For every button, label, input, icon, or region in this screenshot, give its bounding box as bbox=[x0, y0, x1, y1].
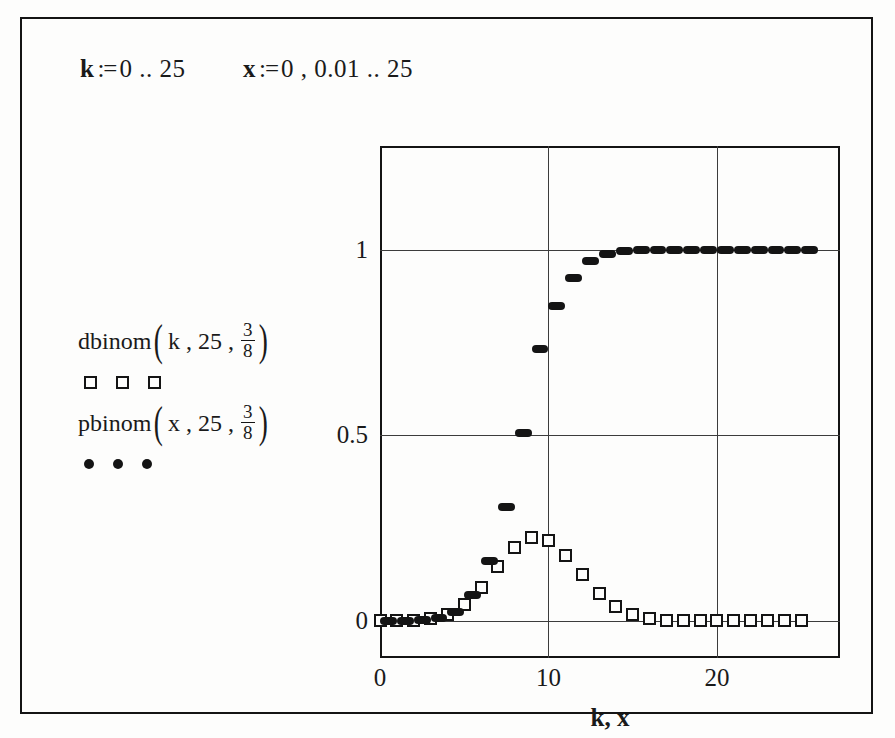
data-point-step-segment bbox=[397, 617, 414, 625]
data-point-step-segment bbox=[683, 246, 700, 254]
data-point-step-segment bbox=[768, 246, 785, 254]
data-point-step-segment bbox=[784, 246, 801, 254]
data-point-square bbox=[660, 614, 673, 627]
filled-dot-icon bbox=[142, 459, 152, 469]
plot-frame bbox=[380, 146, 840, 658]
x-tick-label: 0 bbox=[374, 664, 387, 692]
data-point-step-segment bbox=[700, 246, 717, 254]
legend-entry-dbinom: dbinom ( k , 25 , 3 8 ) bbox=[78, 319, 368, 363]
data-point-square bbox=[694, 614, 707, 627]
page-canvas: k:=0 .. 25 x:=0 , 0.01 .. 25 dbinom ( k … bbox=[0, 0, 895, 738]
data-point-square bbox=[778, 614, 791, 627]
definition-x-variable: x bbox=[243, 55, 256, 82]
data-point-step-segment bbox=[801, 246, 818, 254]
open-square-icon bbox=[84, 376, 97, 389]
y-tick-label: 1 bbox=[356, 236, 369, 264]
open-square-icon bbox=[148, 376, 161, 389]
data-point-step-segment bbox=[633, 246, 650, 254]
open-square-icon bbox=[116, 376, 129, 389]
plot-legend: dbinom ( k , 25 , 3 8 ) pbinom ( x , 25 … bbox=[78, 319, 368, 483]
definition-k: k:=0 .. 25 bbox=[80, 55, 185, 83]
legend-markers-dbinom bbox=[78, 363, 368, 401]
x-axis-label: k, x bbox=[591, 704, 630, 732]
left-paren-icon: ( bbox=[154, 405, 163, 440]
data-point-square bbox=[508, 541, 521, 554]
data-point-square bbox=[795, 614, 808, 627]
right-paren-icon: ) bbox=[258, 323, 267, 358]
data-point-square bbox=[744, 614, 757, 627]
data-point-step-segment bbox=[447, 608, 464, 616]
definition-k-operator: := bbox=[94, 55, 119, 82]
fraction-denominator: 8 bbox=[241, 422, 255, 442]
gridline-horizontal bbox=[380, 435, 840, 436]
data-point-step-segment bbox=[380, 617, 397, 625]
legend-markers-pbinom bbox=[78, 445, 368, 483]
data-point-square bbox=[626, 608, 639, 621]
data-point-step-segment bbox=[666, 246, 683, 254]
gridline-vertical bbox=[548, 146, 549, 658]
gridline-vertical bbox=[717, 146, 718, 658]
data-point-square bbox=[525, 531, 538, 544]
data-point-step-segment bbox=[532, 345, 549, 353]
legend-function-name-dbinom: dbinom bbox=[78, 328, 153, 355]
data-point-square bbox=[677, 614, 690, 627]
data-point-step-segment bbox=[464, 591, 481, 599]
data-point-step-segment bbox=[582, 257, 599, 265]
data-point-square bbox=[761, 614, 774, 627]
document-frame: k:=0 .. 25 x:=0 , 0.01 .. 25 dbinom ( k … bbox=[20, 17, 873, 714]
left-paren-icon: ( bbox=[154, 323, 163, 358]
data-point-step-segment bbox=[548, 302, 565, 310]
data-point-step-segment bbox=[599, 250, 616, 258]
binomial-plot: 00.51 01020 k, x bbox=[380, 146, 840, 658]
filled-dot-icon bbox=[84, 459, 94, 469]
data-point-step-segment bbox=[515, 429, 532, 437]
data-point-square bbox=[609, 600, 622, 613]
data-point-square bbox=[576, 568, 589, 581]
data-point-step-segment bbox=[616, 247, 633, 255]
fraction-numerator: 3 bbox=[241, 402, 255, 421]
y-tick-label: 0 bbox=[356, 607, 369, 635]
data-point-step-segment bbox=[717, 246, 734, 254]
legend-entry-pbinom: pbinom ( x , 25 , 3 8 ) bbox=[78, 401, 368, 445]
data-point-step-segment bbox=[734, 246, 751, 254]
y-tick-label: 0.5 bbox=[337, 421, 368, 449]
data-point-step-segment bbox=[565, 274, 582, 282]
fraction-numerator: 3 bbox=[241, 320, 255, 339]
legend-args-dbinom: k , 25 , bbox=[164, 328, 238, 355]
definition-k-variable: k bbox=[80, 55, 94, 82]
definition-block: k:=0 .. 25 x:=0 , 0.01 .. 25 bbox=[80, 55, 413, 83]
fraction-denominator: 8 bbox=[241, 340, 255, 360]
definition-x-expression: 0 , 0.01 .. 25 bbox=[281, 55, 413, 82]
definition-x-operator: := bbox=[256, 55, 281, 82]
definition-x: x:=0 , 0.01 .. 25 bbox=[243, 55, 413, 83]
legend-args-pbinom: x , 25 , bbox=[164, 410, 238, 437]
data-point-step-segment bbox=[650, 246, 667, 254]
data-point-square bbox=[559, 549, 572, 562]
data-point-step-segment bbox=[751, 246, 768, 254]
data-point-square bbox=[542, 534, 555, 547]
legend-function-name-pbinom: pbinom bbox=[78, 410, 153, 437]
legend-fraction-pbinom: 3 8 bbox=[241, 402, 255, 442]
definition-k-expression: 0 .. 25 bbox=[119, 55, 185, 82]
data-point-square bbox=[643, 612, 656, 625]
data-point-step-segment bbox=[414, 616, 431, 624]
data-point-step-segment bbox=[481, 557, 498, 565]
data-point-step-segment bbox=[498, 503, 515, 511]
data-point-step-segment bbox=[431, 614, 448, 622]
x-tick-label: 10 bbox=[536, 664, 561, 692]
data-point-square bbox=[710, 614, 723, 627]
data-point-square bbox=[593, 587, 606, 600]
right-paren-icon: ) bbox=[258, 405, 267, 440]
filled-dot-icon bbox=[113, 459, 123, 469]
data-point-square bbox=[727, 614, 740, 627]
x-tick-label: 20 bbox=[704, 664, 729, 692]
legend-fraction-dbinom: 3 8 bbox=[241, 320, 255, 360]
